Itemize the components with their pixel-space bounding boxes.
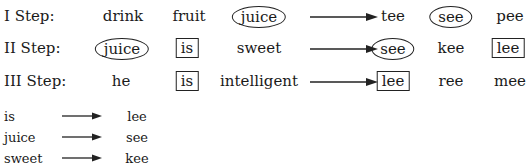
step-1-word-3-circled: juice (232, 6, 286, 28)
step-3-word-1: he (112, 72, 131, 90)
step-1-code-2-circled: see (429, 6, 472, 28)
step-2-code-1-circled: see (371, 38, 414, 60)
step-1-word-1: drink (103, 7, 143, 25)
arrow-icon (62, 132, 102, 144)
step-1-code-1: tee (381, 7, 405, 25)
arrow-icon (310, 43, 378, 55)
mapping-3-word: sweet (4, 150, 42, 168)
arrow-icon (310, 11, 378, 23)
step-3-code-3: mee (494, 72, 526, 90)
step-1-label: I Step: (4, 7, 55, 25)
step-2-word-3: sweet (237, 39, 281, 57)
step-2-word-2-boxed: is (176, 38, 199, 58)
arrow-icon (62, 153, 102, 165)
step-3-word-2-boxed: is (176, 71, 199, 91)
mapping-2-code: see (126, 129, 148, 147)
step-1-word-2: fruit (172, 7, 205, 25)
step-3-word-3: intelligent (220, 72, 298, 90)
step-1-code-3: pee (496, 7, 523, 25)
mapping-3-code: kee (125, 150, 148, 168)
step-3-code-2: ree (439, 72, 464, 90)
step-3-code-1-boxed: lee (377, 71, 410, 91)
step-2-label: II Step: (4, 39, 60, 57)
step-2-code-2: kee (438, 39, 465, 57)
mapping-2-word: juice (4, 129, 36, 147)
step-3-label: III Step: (4, 72, 66, 90)
mapping-1-code: lee (127, 108, 147, 126)
arrow-icon (62, 111, 102, 123)
step-2-word-1-circled: juice (95, 38, 149, 60)
mapping-1-word: is (4, 108, 15, 126)
step-2-code-3-boxed: lee (492, 38, 525, 58)
arrow-icon (310, 76, 378, 88)
